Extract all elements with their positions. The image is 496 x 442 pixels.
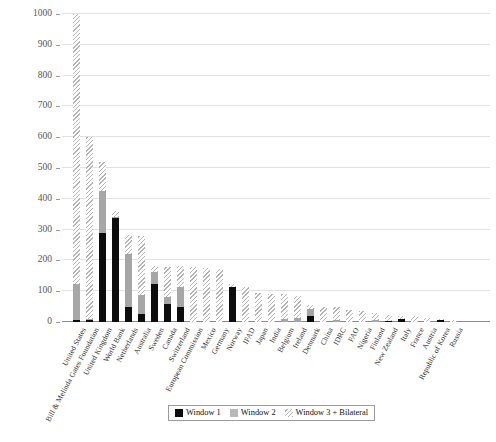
bar-segment-w3 xyxy=(190,267,197,322)
legend-item-window-3-bilateral: Window 3 + Bilateral xyxy=(285,408,369,417)
y-tick-mark-300 xyxy=(56,230,60,231)
plot-area xyxy=(62,14,490,322)
bar-segment-w3 xyxy=(411,316,418,322)
bar-segment-w2 xyxy=(125,254,132,307)
y-tick-label-1000: 1000 xyxy=(0,8,52,18)
bar-segment-w1 xyxy=(86,320,93,322)
bar-segment-w1 xyxy=(138,314,145,322)
bar-column xyxy=(437,319,444,322)
legend-label-window-1: Window 1 xyxy=(186,408,221,417)
bar-column xyxy=(268,294,275,322)
bar-column xyxy=(73,14,80,322)
bar-segment-w1 xyxy=(151,284,158,322)
bar-segment-w2 xyxy=(177,287,184,307)
bar-column xyxy=(372,313,379,322)
bar-column xyxy=(242,287,249,322)
legend-item-window-2: Window 2 xyxy=(230,408,276,417)
bar-column xyxy=(450,320,457,322)
bar-column xyxy=(86,137,93,322)
bar-column xyxy=(190,267,197,322)
window-3-bilateral-swatch xyxy=(285,409,293,417)
bar-segment-w2 xyxy=(138,295,145,314)
window-1-swatch xyxy=(175,409,183,417)
bar-column xyxy=(294,296,301,322)
y-tick-label-600: 600 xyxy=(0,131,52,141)
y-tick-mark-700 xyxy=(56,106,60,107)
bar-segment-w2 xyxy=(73,284,80,320)
y-tick-mark-1000 xyxy=(56,14,60,15)
y-tick-label-100: 100 xyxy=(0,285,52,295)
bar-segment-w1 xyxy=(99,233,106,322)
bar-column xyxy=(151,266,158,322)
bar-segment-w1 xyxy=(164,304,171,322)
bar-column xyxy=(411,316,418,322)
bar-segment-w1 xyxy=(437,320,444,322)
y-tick-mark-800 xyxy=(56,76,60,77)
bar-column xyxy=(229,284,236,322)
y-tick-label-300: 300 xyxy=(0,224,52,234)
y-axis: 01002003004005006007008009001000 xyxy=(0,0,58,336)
bar-segment-w3 xyxy=(359,311,366,322)
bar-segment-w1 xyxy=(398,319,405,322)
bar-segment-w2 xyxy=(151,272,158,285)
bar-segment-w3 xyxy=(268,294,275,322)
bar-segment-w3 xyxy=(242,287,249,322)
y-tick-mark-0 xyxy=(56,322,60,323)
bar-column xyxy=(359,311,366,322)
y-tick-label-500: 500 xyxy=(0,162,52,172)
y-tick-label-800: 800 xyxy=(0,70,52,80)
bar-segment-w2 xyxy=(281,319,288,322)
bar-column xyxy=(164,267,171,322)
bar-segment-w3 xyxy=(424,318,431,322)
bar-segment-w1 xyxy=(229,287,236,322)
bar-column xyxy=(320,307,327,322)
bar-segment-w1 xyxy=(177,307,184,322)
legend-label-window-3-bilateral: Window 3 + Bilateral xyxy=(296,408,369,417)
bar-segment-w3 xyxy=(138,236,145,294)
bar-column xyxy=(281,294,288,322)
bar-column xyxy=(203,268,210,322)
y-tick-label-900: 900 xyxy=(0,39,52,49)
y-tick-mark-900 xyxy=(56,45,60,46)
y-tick-label-400: 400 xyxy=(0,193,52,203)
bar-segment-w3 xyxy=(281,294,288,319)
bar-segment-w3 xyxy=(255,293,262,322)
bar-column xyxy=(177,266,184,322)
bar-segment-w3 xyxy=(372,313,379,320)
bar-segment-w2 xyxy=(307,309,314,316)
window-2-swatch xyxy=(230,409,238,417)
legend-item-window-1: Window 1 xyxy=(175,408,221,417)
y-tick-label-700: 700 xyxy=(0,100,52,110)
bar-segment-w3 xyxy=(99,162,106,191)
bar-column xyxy=(255,293,262,322)
bar-segment-w3 xyxy=(333,307,340,320)
y-tick-mark-600 xyxy=(56,137,60,138)
bar-column xyxy=(112,211,119,322)
bar-segment-w3 xyxy=(177,266,184,288)
bar-segment-w1 xyxy=(125,307,132,322)
bar-column xyxy=(333,307,340,322)
chart-legend: Window 1 Window 2 Window 3 + Bilateral xyxy=(168,405,375,421)
bar-column xyxy=(346,310,353,322)
bar-segment-w3 xyxy=(86,137,93,319)
bar-column xyxy=(125,235,132,322)
bar-segment-w2 xyxy=(99,191,106,233)
bar-segment-w1 xyxy=(73,320,80,322)
bar-column xyxy=(424,318,431,322)
bar-segment-w2 xyxy=(333,320,340,322)
bar-segment-w3 xyxy=(73,14,80,284)
bar-column xyxy=(307,305,314,322)
bar-column xyxy=(99,162,106,322)
y-tick-mark-500 xyxy=(56,168,60,169)
bar-column xyxy=(398,316,405,322)
bar-segment-w2 xyxy=(372,320,379,322)
y-tick-mark-100 xyxy=(56,291,60,292)
bar-column xyxy=(385,315,392,322)
y-tick-mark-400 xyxy=(56,199,60,200)
bar-column xyxy=(138,236,145,322)
y-tick-mark-200 xyxy=(56,260,60,261)
bar-segment-w1 xyxy=(307,316,314,322)
bar-segment-w3 xyxy=(203,268,210,322)
legend-label-window-2: Window 2 xyxy=(241,408,276,417)
bar-segment-w3 xyxy=(216,269,223,322)
